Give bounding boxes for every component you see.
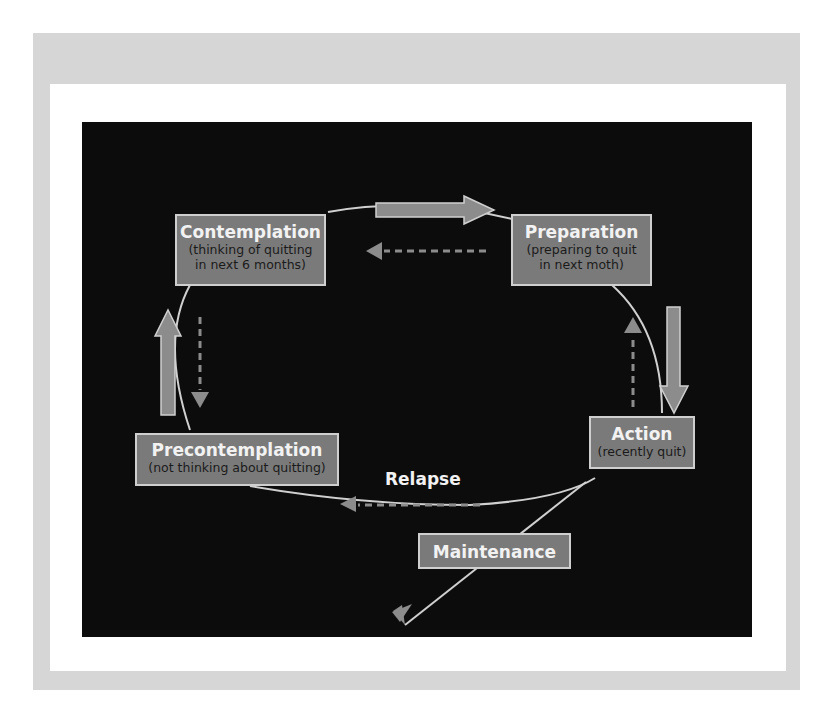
stage-desc: (recently quit) xyxy=(591,444,693,459)
stage-desc: (preparing to quit xyxy=(513,242,650,257)
stage-title: Action xyxy=(591,424,693,444)
stage-title: Preparation xyxy=(513,222,650,242)
arrow-contemplation-to-preparation-icon xyxy=(376,196,494,224)
relapse-label: Relapse xyxy=(385,469,461,489)
stage-desc: (not thinking about quitting) xyxy=(137,460,337,475)
stage-desc: (thinking of quitting xyxy=(177,242,324,257)
stage-precontemplation: Precontemplation (not thinking about qui… xyxy=(135,433,339,486)
stage-preparation: Preparation (preparing to quit in next m… xyxy=(511,214,652,286)
stage-desc: in next moth) xyxy=(513,257,650,272)
arrow-contemplation-to-precontemplation-icon xyxy=(191,317,209,408)
stage-desc: in next 6 months) xyxy=(177,257,324,272)
stage-contemplation: Contemplation (thinking of quitting in n… xyxy=(175,214,326,286)
arrow-preparation-to-contemplation-icon xyxy=(366,242,486,260)
stage-title: Precontemplation xyxy=(137,440,337,460)
arrow-action-to-preparation-icon xyxy=(624,317,642,407)
arrow-preparation-to-action-icon xyxy=(660,307,688,413)
stage-title: Contemplation xyxy=(177,222,324,242)
stage-maintenance: Maintenance xyxy=(418,533,571,569)
cycle-connectors xyxy=(0,0,832,719)
stage-title: Maintenance xyxy=(420,542,569,562)
stage-action: Action (recently quit) xyxy=(589,416,695,469)
